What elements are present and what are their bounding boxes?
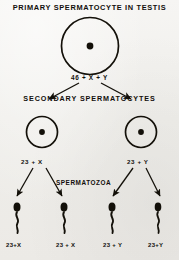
diagram-text-layer: PRIMARY SPERMATOCYTE IN TESTIS 46 + X + … bbox=[0, 0, 179, 260]
secondary-right-chromosome-label: 23 + Y bbox=[127, 158, 149, 165]
spermatozoon-4-label: 23+Y bbox=[148, 242, 163, 248]
spermatozoa-stage-heading: SPERMATOZOA bbox=[56, 179, 111, 186]
secondary-left-chromosome-label: 23 + X bbox=[21, 158, 43, 165]
secondary-stage-heading: SECONDARY SPERMATOCYTES bbox=[0, 94, 179, 103]
spermatozoon-1-label: 23+X bbox=[6, 242, 21, 248]
primary-chromosome-label: 46 + X + Y bbox=[0, 74, 179, 81]
spermatozoon-3-label: 23 + Y bbox=[103, 242, 122, 248]
spermatozoon-2-label: 23 + X bbox=[56, 242, 75, 248]
spermatogenesis-diagram: PRIMARY SPERMATOCYTE IN TESTIS 46 + X + … bbox=[0, 0, 179, 260]
page-title: PRIMARY SPERMATOCYTE IN TESTIS bbox=[0, 3, 179, 12]
